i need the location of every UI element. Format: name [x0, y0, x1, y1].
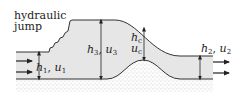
h1-u1-label: h1, u1 — [36, 61, 66, 75]
h3-u3-label: h3, u3 — [87, 43, 117, 57]
h2-u2-label: h2, u2 — [201, 42, 231, 56]
hydraulic-jump-diagram: hydraulic jump h1, u1 h3, u3 hc uc h2, u… — [0, 0, 247, 99]
hydraulic-jump-label-line2: jump — [12, 20, 42, 33]
